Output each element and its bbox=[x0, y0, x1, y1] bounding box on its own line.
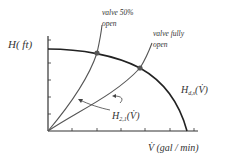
annotation-valve-full-line2: open bbox=[153, 40, 168, 49]
y-axis-label: H( ft) bbox=[7, 38, 32, 51]
annotation-valve-50-line1: valve 50% bbox=[102, 8, 133, 17]
x-axis-label: V̇ (gal / min) bbox=[148, 142, 199, 154]
system-curve-label-sub: 2,1 bbox=[119, 116, 127, 122]
pump-curve-label-arg: (V̇) bbox=[195, 84, 208, 96]
system-curve-label: H2,1(V̇) bbox=[111, 110, 140, 122]
annotation-valve-50-line2: open bbox=[102, 19, 117, 28]
svg-text:Hd,s(V̇): Hd,s(V̇) bbox=[180, 84, 209, 96]
operating-point-valve-50 bbox=[94, 50, 99, 55]
operating-point-valve-full bbox=[137, 65, 142, 70]
annotation-valve-full-line1: valve fully bbox=[153, 29, 185, 38]
arrowhead-icon bbox=[112, 94, 116, 98]
pump-system-diagram: H( ft) V̇ (gal / min) valve 50% open val… bbox=[0, 0, 233, 161]
system-curve-label-arg: (V̇) bbox=[127, 110, 140, 122]
pump-curve-label: Hd,s(V̇) bbox=[180, 84, 209, 96]
svg-text:H2,1(V̇): H2,1(V̇) bbox=[111, 110, 140, 122]
